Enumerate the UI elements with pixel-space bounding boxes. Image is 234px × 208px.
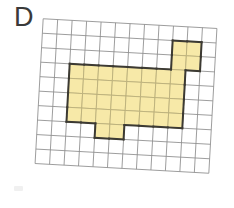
shape-cell bbox=[186, 56, 201, 71]
shape-cell bbox=[140, 82, 155, 97]
shape-outline-segment bbox=[182, 114, 183, 128]
figure-container: D bbox=[0, 0, 234, 208]
shape-cell bbox=[172, 41, 187, 56]
shape-outline-segment bbox=[186, 70, 200, 71]
shape-cell bbox=[97, 80, 112, 95]
shape-cell bbox=[154, 98, 169, 113]
shape-cell bbox=[170, 69, 185, 84]
shape-outline-segment bbox=[109, 139, 123, 140]
shape-cell bbox=[95, 109, 110, 124]
shape-outline-segment bbox=[124, 125, 125, 139]
panel-label: D bbox=[14, 4, 34, 31]
shape-outline-segment bbox=[201, 42, 202, 56]
shape-outline-segment bbox=[95, 123, 96, 137]
shape-cell bbox=[98, 65, 113, 80]
shape-outline-segment bbox=[68, 78, 69, 92]
shape-cell bbox=[186, 41, 201, 56]
shape-cell bbox=[141, 68, 156, 83]
shape-cell bbox=[67, 93, 82, 108]
shape-outline-segment bbox=[171, 55, 172, 69]
shape-outline-segment bbox=[187, 41, 201, 42]
shape-outline-segment bbox=[67, 93, 68, 107]
shape-cell bbox=[81, 108, 96, 123]
shape-outline-segment bbox=[153, 127, 167, 128]
shape-outline-segment bbox=[99, 65, 113, 66]
shape-cell bbox=[112, 66, 127, 81]
shape-outline-segment bbox=[84, 65, 98, 66]
shape-cell bbox=[168, 113, 183, 128]
shape-cell bbox=[83, 79, 98, 94]
shape-cell bbox=[124, 110, 139, 125]
shape-outline-segment bbox=[168, 127, 182, 128]
shape-outline-segment bbox=[157, 69, 171, 70]
shape-cell bbox=[139, 111, 154, 126]
shape-cell bbox=[69, 64, 84, 79]
shape-outline-segment bbox=[139, 126, 153, 127]
shape-outline-segment bbox=[66, 107, 67, 121]
shape-outline-segment bbox=[70, 64, 84, 65]
shape-outline-segment bbox=[142, 68, 156, 69]
shape-outline-segment bbox=[81, 123, 95, 124]
grid-stage bbox=[35, 18, 217, 173]
shape-cell bbox=[111, 95, 126, 110]
shape-cell bbox=[110, 110, 125, 125]
shape-cell bbox=[140, 97, 155, 112]
page-speck bbox=[14, 186, 23, 191]
shape-cell bbox=[125, 96, 140, 111]
shape-cell bbox=[68, 78, 83, 93]
shape-outline-segment bbox=[173, 41, 187, 42]
shape-cell bbox=[171, 55, 186, 70]
shape-cell bbox=[156, 69, 171, 84]
shape-outline-segment bbox=[69, 64, 70, 78]
shape-cell bbox=[126, 82, 141, 97]
shape-outline-segment bbox=[128, 67, 142, 68]
shape-cell bbox=[95, 123, 110, 138]
shape-cell bbox=[153, 112, 168, 127]
shape-outline-segment bbox=[66, 122, 80, 123]
shape-outline-segment bbox=[113, 66, 127, 67]
shape-cell bbox=[83, 65, 98, 80]
shape-outline-segment bbox=[183, 99, 184, 113]
shape-cell bbox=[127, 67, 142, 82]
shape-cell bbox=[169, 98, 184, 113]
shape-cell bbox=[96, 94, 111, 109]
shape-cell bbox=[109, 124, 124, 139]
grid-figure bbox=[35, 18, 217, 173]
shape-cell bbox=[169, 84, 184, 99]
shape-outline-segment bbox=[172, 41, 173, 55]
shape-outline-segment bbox=[184, 85, 185, 99]
shape-outline-segment bbox=[95, 138, 109, 139]
shape-outline-segment bbox=[200, 57, 201, 71]
shape-outline-segment bbox=[124, 125, 138, 126]
shape-cell bbox=[112, 81, 127, 96]
shape-outline-segment bbox=[185, 70, 186, 84]
shape-cell bbox=[66, 107, 81, 122]
shape-cell bbox=[82, 94, 97, 109]
shape-cell bbox=[155, 83, 170, 98]
